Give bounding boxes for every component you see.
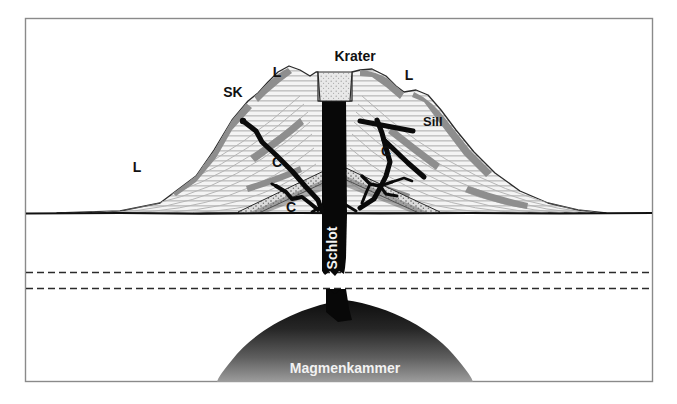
label-lava-left-top: L <box>273 64 282 80</box>
label-magmenkammer: Magmenkammer <box>290 360 401 376</box>
label-conduit-right: C <box>381 143 391 159</box>
label-krater: Krater <box>334 48 376 64</box>
label-conduit-left: C <box>272 154 282 170</box>
volcano-diagram-canvas: Krater L L L SK Sill C C C Schlot Magmen… <box>0 0 677 404</box>
label-lava-right-top: L <box>405 67 414 83</box>
label-sill: Sill <box>423 114 443 129</box>
volcano-cross-section-figure: Krater L L L SK Sill C C C Schlot Magmen… <box>0 0 677 404</box>
label-schlackenkegel: SK <box>223 84 242 100</box>
label-schlot: Schlot <box>324 226 340 269</box>
label-lava-left-lower: L <box>133 159 142 175</box>
label-conduit-bottom: C <box>286 199 296 215</box>
crater-infill <box>318 72 352 101</box>
